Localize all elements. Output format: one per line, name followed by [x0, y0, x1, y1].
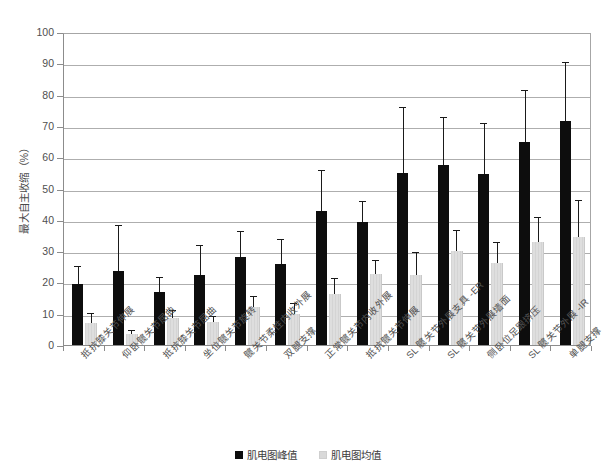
error-bar-whisker — [565, 63, 566, 121]
x-tick-mark — [63, 346, 64, 351]
bar-mean — [573, 237, 585, 345]
legend-swatch-peak — [235, 451, 243, 459]
error-bar-whisker — [321, 171, 322, 211]
error-bar-cap — [521, 90, 528, 91]
bar-peak — [72, 284, 83, 345]
error-bar-whisker — [375, 261, 376, 274]
error-bar-whisker — [403, 108, 404, 174]
x-tick-mark — [144, 346, 145, 351]
bar-peak — [316, 211, 327, 345]
emg-bar-chart: 最大自主收缩（%） 0102030405060708090100 抵抗膝关节伸展… — [0, 0, 615, 469]
y-tick-label: 70 — [14, 121, 54, 131]
bar-group — [64, 32, 105, 345]
y-tick-label: 80 — [14, 90, 54, 100]
x-tick-mark — [307, 346, 308, 351]
error-bar-cap — [156, 277, 163, 278]
bar-group — [145, 32, 186, 345]
y-tick-label: 0 — [14, 340, 54, 350]
bar-group — [308, 32, 349, 345]
y-tick-label: 20 — [14, 277, 54, 287]
error-bar-whisker — [362, 202, 363, 222]
y-tick-label: 40 — [14, 215, 54, 225]
y-tick-label: 10 — [14, 309, 54, 319]
error-bar-whisker — [78, 267, 79, 284]
error-bar-cap — [318, 170, 325, 171]
x-tick-mark — [388, 346, 389, 351]
error-bar-whisker — [484, 124, 485, 174]
x-tick-mark — [185, 346, 186, 351]
error-bar-cap — [575, 200, 582, 201]
chart-legend: 肌电图峰值 肌电图均值 — [0, 447, 615, 462]
error-bar-cap — [74, 266, 81, 267]
error-bar-cap — [128, 330, 135, 331]
bar-group — [105, 32, 146, 345]
x-tick-mark — [510, 346, 511, 351]
error-bar-cap — [480, 123, 487, 124]
error-bar-whisker — [213, 317, 214, 322]
bar-group — [511, 32, 552, 345]
bar-group — [551, 32, 592, 345]
error-bar-cap — [250, 296, 257, 297]
bar-group — [186, 32, 227, 345]
error-bar-whisker — [456, 231, 457, 251]
error-bar-cap — [493, 242, 500, 243]
bar-group — [389, 32, 430, 345]
error-bar-cap — [115, 225, 122, 226]
error-bar-whisker — [91, 314, 92, 323]
error-bar-cap — [196, 245, 203, 246]
x-tick-mark — [225, 346, 226, 351]
legend-label-mean: 肌电图均值 — [331, 447, 381, 462]
y-tick-label: 100 — [14, 27, 54, 37]
y-tick-label: 60 — [14, 152, 54, 162]
x-tick-mark — [469, 346, 470, 351]
error-bar-cap — [237, 231, 244, 232]
error-bar-whisker — [538, 218, 539, 241]
legend-item-mean: 肌电图均值 — [319, 447, 381, 462]
x-tick-mark — [550, 346, 551, 351]
bar-group — [226, 32, 267, 345]
error-bar-whisker — [334, 279, 335, 294]
x-tick-mark — [429, 346, 430, 351]
legend-label-peak: 肌电图峰值 — [247, 447, 297, 462]
error-bar-whisker — [525, 91, 526, 142]
x-tick-mark — [591, 346, 592, 351]
error-bar-whisker — [200, 246, 201, 274]
error-bar-cap — [87, 313, 94, 314]
error-bar-whisker — [281, 240, 282, 264]
y-tick-label: 50 — [14, 184, 54, 194]
error-bar-cap — [331, 278, 338, 279]
error-bar-whisker — [497, 243, 498, 262]
x-tick-mark — [347, 346, 348, 351]
legend-item-peak: 肌电图峰值 — [235, 447, 297, 462]
x-tick-mark — [266, 346, 267, 351]
bar-mean — [532, 242, 544, 345]
error-bar-cap — [562, 62, 569, 63]
error-bar-whisker — [159, 278, 160, 292]
error-bar-whisker — [578, 201, 579, 237]
error-bar-cap — [277, 239, 284, 240]
y-tick-label: 90 — [14, 58, 54, 68]
error-bar-cap — [372, 260, 379, 261]
error-bar-cap — [399, 107, 406, 108]
error-bar-cap — [440, 117, 447, 118]
y-tick-label: 30 — [14, 246, 54, 256]
error-bar-cap — [359, 201, 366, 202]
error-bar-whisker — [240, 232, 241, 257]
error-bar-cap — [412, 252, 419, 253]
error-bar-whisker — [443, 118, 444, 165]
error-bar-whisker — [118, 226, 119, 271]
error-bar-cap — [534, 217, 541, 218]
error-bar-whisker — [131, 331, 132, 334]
error-bar-whisker — [416, 253, 417, 275]
x-tick-mark — [104, 346, 105, 351]
legend-swatch-mean — [319, 451, 327, 459]
error-bar-cap — [453, 230, 460, 231]
